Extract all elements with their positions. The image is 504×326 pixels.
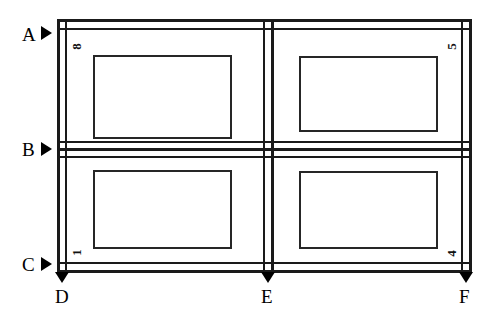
reference-marker-a-icon	[41, 26, 52, 40]
frame-center-left-line	[263, 19, 265, 273]
reference-label-b: B	[22, 140, 35, 159]
panel-rect-top-left	[93, 55, 232, 139]
reference-marker-d-icon	[55, 272, 69, 283]
reference-label-f: F	[459, 287, 470, 306]
panel-rect-bottom-left	[93, 170, 232, 249]
reference-marker-e-icon	[261, 272, 275, 283]
reference-marker-c-icon	[41, 257, 52, 271]
reference-marker-b-icon	[41, 142, 52, 156]
reference-marker-f-icon	[459, 272, 473, 283]
frame-center-right-line	[271, 19, 274, 273]
quadrant-label-top-left: 8	[70, 40, 83, 54]
quadrant-label-bottom-right: 4	[445, 247, 458, 261]
quadrant-label-top-right: 5	[445, 40, 458, 54]
reference-label-a: A	[22, 25, 36, 44]
panel-grid-diagram: 8 5 1 4 A B C D E F	[0, 0, 504, 326]
frame-left-inner-line	[65, 19, 67, 273]
panel-rect-bottom-right	[299, 171, 438, 249]
reference-label-e: E	[261, 287, 273, 306]
reference-label-c: C	[22, 255, 35, 274]
panel-rect-top-right	[299, 56, 438, 132]
frame-right-outer-line	[469, 19, 472, 273]
frame-right-inner-line	[461, 19, 463, 273]
reference-label-d: D	[55, 287, 69, 306]
frame-left-outer-line	[57, 19, 60, 273]
quadrant-label-bottom-left: 1	[70, 246, 83, 260]
